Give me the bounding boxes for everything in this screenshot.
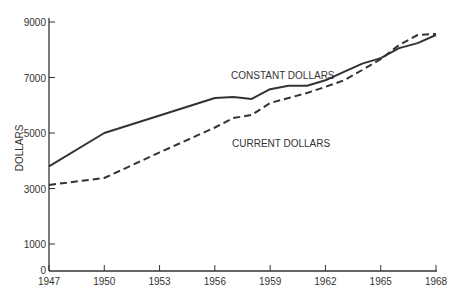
series-lines [49, 34, 436, 185]
x-tick-label: 1950 [93, 276, 116, 287]
y-tick-label: 0 [40, 265, 46, 276]
x-tick-label: 1965 [370, 276, 393, 287]
x-tick-label: 1962 [314, 276, 337, 287]
current-dollars-label: CURRENT DOLLARS [232, 138, 330, 149]
y-axis-label: DOLLARS [14, 124, 25, 171]
x-tick-label: 1953 [148, 276, 171, 287]
y-tick-label: 3000 [24, 184, 47, 195]
y-tick-label: 9000 [24, 17, 47, 28]
x-tick-label: 1947 [38, 276, 61, 287]
x-tick-label: 1959 [259, 276, 282, 287]
line-chart: 0100030005000700090001947195019531956195… [0, 0, 455, 304]
x-tick-label: 1956 [204, 276, 227, 287]
y-tick-label: 5000 [24, 128, 47, 139]
constant-dollars-label: CONSTANT DOLLARS [231, 70, 335, 81]
y-tick-label: 1000 [24, 239, 47, 250]
x-tick-label: 1968 [425, 276, 448, 287]
current-dollars-line [49, 34, 436, 185]
axes: 0100030005000700090001947195019531956195… [24, 17, 448, 287]
y-tick-label: 7000 [24, 73, 47, 84]
